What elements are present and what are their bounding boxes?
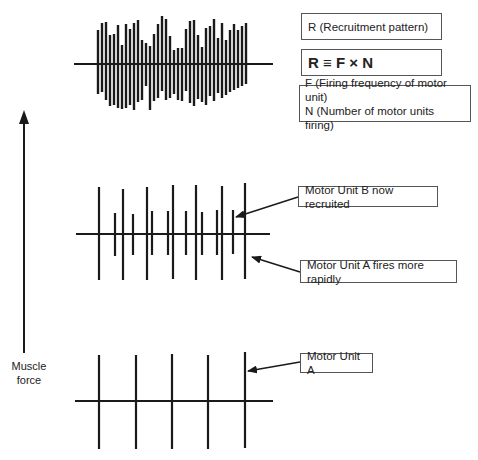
waveform-recruitment-pattern	[74, 16, 273, 110]
axis-label-line1: Muscle	[6, 359, 52, 373]
motor-unit-a-label-box: Motor Unit A	[300, 353, 373, 373]
recruitment-pattern-box: R (Recruitment pattern)	[301, 13, 442, 40]
callout-arrow-motor-unit-a	[248, 362, 300, 371]
definition-n: N (Number of motor units firing)	[305, 104, 464, 132]
waveform-motor-unit-a	[75, 352, 273, 449]
axis-label-line2: force	[6, 373, 52, 387]
motor-unit-a-rapid-label-box: Motor Unit A fires more rapidly	[300, 260, 457, 283]
motor-unit-b-label: Motor Unit B now recruited	[305, 183, 431, 211]
formula-box: R ≡ F × N	[301, 49, 442, 76]
waveform-motor-units-a-and-b	[76, 183, 270, 280]
definition-f: F (Firing frequency of motor unit)	[305, 76, 464, 104]
muscle-force-arrow-icon	[19, 110, 29, 353]
callout-arrow-motor-unit-a-rapid	[252, 257, 300, 272]
motor-unit-b-label-box: Motor Unit B now recruited	[298, 186, 438, 207]
motor-unit-a-label: Motor Unit A	[307, 349, 366, 377]
definitions-box: F (Firing frequency of motor unit) N (Nu…	[299, 85, 471, 122]
motor-unit-a-rapid-label: Motor Unit A fires more rapidly	[307, 258, 450, 286]
formula-text: R ≡ F × N	[308, 56, 435, 70]
recruitment-pattern-label: R (Recruitment pattern)	[308, 20, 435, 34]
muscle-force-axis-label: Muscle force	[6, 359, 52, 387]
arrow-up-icon	[19, 110, 29, 124]
